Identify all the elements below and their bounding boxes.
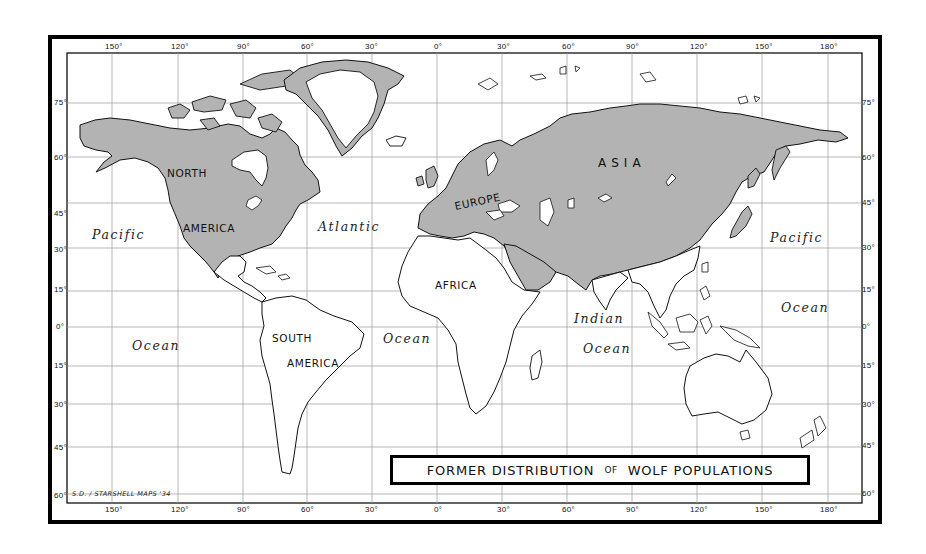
lat-tick: 15° — [54, 285, 67, 294]
lon-tick: 30° — [365, 42, 378, 51]
lat-tick: 0° — [56, 322, 64, 331]
lon-tick: 120° — [171, 505, 189, 514]
madagascar — [530, 350, 542, 380]
lat-tick: 15° — [862, 285, 875, 294]
label-north-america-2: AMERICA — [183, 222, 235, 234]
lat-tick: 75° — [54, 98, 67, 107]
label-north-america-1: NORTH — [167, 167, 207, 179]
british-isles — [416, 166, 438, 188]
lat-tick: 45° — [54, 209, 67, 218]
iceland — [386, 136, 406, 146]
lat-tick: 60° — [54, 153, 67, 162]
lon-tick: 0° — [434, 42, 442, 51]
label-atlantic: Atlantic — [318, 219, 380, 234]
map-credit: S.D. / STARSHELL MAPS '34 — [72, 490, 171, 498]
lon-tick: 150° — [105, 505, 123, 514]
lat-tick: 45° — [862, 441, 875, 450]
lon-tick: 30° — [365, 505, 378, 514]
lat-tick: 30° — [862, 400, 875, 409]
label-south-america-2: AMERICA — [287, 357, 339, 369]
label-africa: AFRICA — [435, 279, 477, 291]
lon-tick: 60° — [562, 42, 575, 51]
lon-tick: 90° — [237, 505, 250, 514]
lat-tick: 30° — [862, 243, 875, 252]
label-pacific-east: Pacific — [770, 230, 823, 245]
lat-tick: 0° — [862, 322, 870, 331]
map-title-box: FORMER DISTRIBUTION OF WOLF POPULATIONS — [390, 455, 810, 485]
lat-tick: 30° — [54, 400, 67, 409]
lat-tick: 60° — [54, 491, 67, 500]
lat-tick: 60° — [862, 153, 875, 162]
lon-tick: 60° — [301, 42, 314, 51]
label-asia: A S I A — [598, 156, 641, 170]
lat-tick: 75° — [862, 98, 875, 107]
lon-tick: 120° — [690, 42, 708, 51]
lon-tick: 180° — [820, 505, 838, 514]
label-indian-ocean: Ocean — [583, 341, 631, 356]
lon-tick: 120° — [690, 505, 708, 514]
label-south-america-1: SOUTH — [272, 332, 312, 344]
lat-tick: 15° — [862, 361, 875, 370]
arctic-eurasian-islands — [478, 66, 760, 104]
title-part-1: FORMER DISTRIBUTION — [427, 463, 595, 478]
label-indian: Indian — [574, 311, 624, 326]
lon-tick: 30° — [497, 42, 510, 51]
caribbean-islands — [256, 266, 290, 280]
north-america-wolf-range — [80, 118, 320, 278]
lat-tick: 60° — [862, 489, 875, 498]
label-ocean-east: Ocean — [781, 300, 829, 315]
lon-tick: 90° — [626, 505, 639, 514]
lon-tick: 120° — [171, 42, 189, 51]
title-part-3: WOLF POPULATIONS — [628, 463, 774, 478]
lon-tick: 60° — [562, 505, 575, 514]
lon-tick: 0° — [434, 505, 442, 514]
lon-tick: 150° — [105, 42, 123, 51]
lon-tick: 60° — [301, 505, 314, 514]
lon-tick: 30° — [497, 505, 510, 514]
lon-tick: 90° — [626, 42, 639, 51]
lat-tick: 15° — [54, 361, 67, 370]
tasmania — [740, 430, 750, 440]
lon-tick: 150° — [755, 42, 773, 51]
title-part-2: OF — [604, 465, 617, 475]
label-atlantic-ocean: Ocean — [383, 331, 431, 346]
lat-tick: 45° — [54, 443, 67, 452]
lon-tick: 150° — [755, 505, 773, 514]
lon-tick: 90° — [237, 42, 250, 51]
lon-tick: 180° — [820, 42, 838, 51]
lat-tick: 45° — [862, 198, 875, 207]
label-ocean-west: Ocean — [132, 338, 180, 353]
new-zealand — [800, 416, 826, 448]
lat-tick: 30° — [54, 245, 67, 254]
arctic-islands — [168, 70, 300, 132]
central-america — [214, 256, 266, 302]
label-pacific-west: Pacific — [92, 227, 145, 242]
